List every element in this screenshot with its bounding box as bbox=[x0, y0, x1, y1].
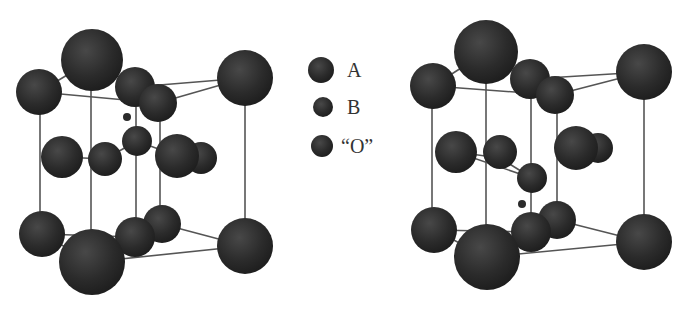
atom-sphere bbox=[217, 50, 273, 106]
atom-sphere bbox=[536, 76, 574, 114]
atom-sphere bbox=[123, 113, 131, 121]
atom-sphere bbox=[16, 69, 62, 115]
atom-sphere bbox=[59, 229, 125, 295]
atom-sphere bbox=[616, 214, 672, 270]
atom-sphere bbox=[139, 84, 177, 122]
atom-sphere bbox=[435, 131, 477, 173]
atom-sphere bbox=[217, 218, 273, 274]
legend-sphere-icon bbox=[308, 57, 334, 83]
legend-sphere-icon bbox=[311, 135, 333, 157]
legend-sphere-icon bbox=[313, 97, 333, 117]
atom-sphere bbox=[88, 142, 122, 176]
left-atoms bbox=[16, 29, 273, 295]
legend-label-o: “O” bbox=[341, 136, 373, 156]
atom-sphere bbox=[61, 29, 123, 91]
atom-sphere bbox=[411, 207, 457, 253]
right-unit-cell bbox=[410, 20, 672, 290]
legend bbox=[308, 57, 334, 157]
perovskite-structure-figure: A B “O” bbox=[0, 0, 691, 314]
atom-sphere bbox=[454, 20, 518, 84]
atom-sphere bbox=[454, 224, 520, 290]
atom-sphere bbox=[517, 163, 547, 193]
atom-sphere bbox=[410, 63, 456, 109]
atom-sphere bbox=[122, 126, 152, 156]
crystal-structure-diagram bbox=[0, 0, 691, 314]
atom-sphere bbox=[155, 134, 199, 178]
legend-label-a: A bbox=[347, 60, 361, 80]
atom-sphere bbox=[554, 126, 598, 170]
left-unit-cell bbox=[16, 29, 273, 295]
atom-sphere bbox=[483, 135, 517, 169]
atom-sphere bbox=[518, 200, 526, 208]
atom-sphere bbox=[41, 136, 83, 178]
legend-label-b: B bbox=[347, 97, 360, 117]
atom-sphere bbox=[19, 211, 65, 257]
atom-sphere bbox=[616, 44, 672, 100]
right-atoms bbox=[410, 20, 672, 290]
